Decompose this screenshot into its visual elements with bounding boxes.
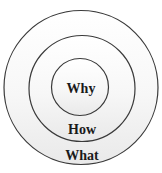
golden-circle-diagram: Why How What: [0, 0, 162, 173]
diagram-canvas: Why How What: [0, 0, 162, 173]
label-why: Why: [67, 81, 96, 96]
label-what: What: [65, 148, 99, 163]
label-how: How: [68, 122, 97, 137]
